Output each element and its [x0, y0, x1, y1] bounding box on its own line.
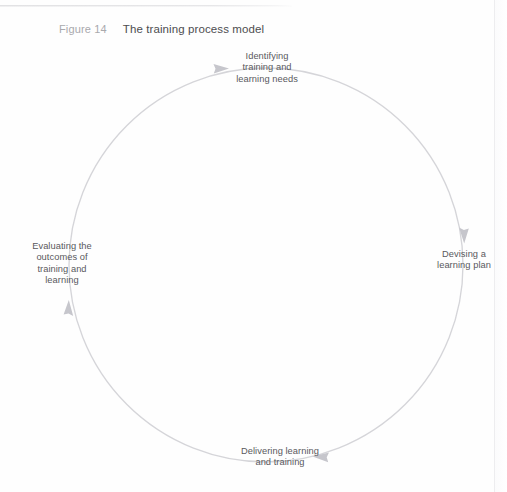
node-line: training and — [14, 264, 110, 275]
node-line: outcomes of — [14, 252, 110, 263]
node-line: Delivering learning — [215, 446, 345, 457]
node-line: training and — [207, 62, 327, 73]
cycle-ring — [69, 68, 463, 462]
node-identifying-needs: Identifying training and learning needs — [207, 51, 327, 85]
node-line: learning needs — [207, 74, 327, 85]
node-line: Evaluating the — [14, 241, 110, 252]
node-line: learning — [14, 275, 110, 286]
node-line: and training — [215, 457, 345, 468]
figure-page: Figure 14The training process model Iden… — [0, 0, 507, 492]
node-line: learning plan — [422, 260, 506, 271]
arrow-to-evaluating-icon — [64, 300, 74, 316]
node-delivering-training: Delivering learning and training — [215, 446, 345, 469]
node-devising-plan: Devising a learning plan — [422, 249, 506, 272]
node-evaluating-outcomes: Evaluating the outcomes of training and … — [14, 241, 110, 286]
node-line: Devising a — [422, 249, 506, 260]
node-line: Identifying — [207, 51, 327, 62]
